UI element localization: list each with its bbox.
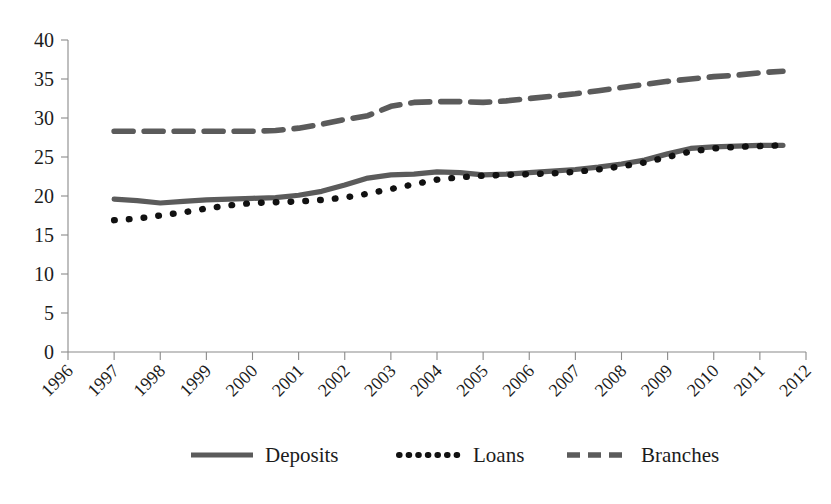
y-tick-label: 15 <box>34 224 54 246</box>
y-tick-label: 20 <box>34 185 54 207</box>
y-tick-label: 40 <box>34 29 54 51</box>
line-chart: 0510152025303540 19961997199819992000200… <box>0 0 831 504</box>
legend-label-deposits: Deposits <box>265 443 339 467</box>
y-tick-label: 35 <box>34 68 54 90</box>
legend-label-branches: Branches <box>641 443 719 467</box>
y-tick-label: 30 <box>34 107 54 129</box>
chart-background <box>0 0 831 504</box>
y-tick-label: 5 <box>44 302 54 324</box>
y-tick-label: 10 <box>34 263 54 285</box>
chart-container: 0510152025303540 19961997199819992000200… <box>0 0 831 504</box>
y-tick-label: 25 <box>34 146 54 168</box>
y-tick-label: 0 <box>44 341 54 363</box>
legend-label-loans: Loans <box>473 443 524 467</box>
